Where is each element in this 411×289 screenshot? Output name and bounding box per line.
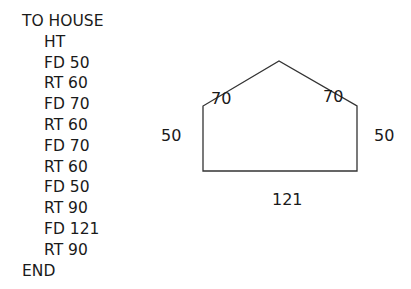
house-shape (0, 0, 411, 289)
right-roof-label: 70 (323, 87, 343, 106)
left-wall-label: 50 (161, 126, 181, 145)
left-roof-label: 70 (211, 89, 231, 108)
base-label: 121 (272, 190, 303, 209)
right-wall-label: 50 (374, 126, 394, 145)
